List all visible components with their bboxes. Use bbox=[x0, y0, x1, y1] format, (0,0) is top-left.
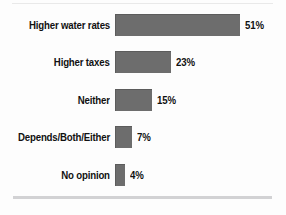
bar-value-label: 51% bbox=[245, 13, 264, 37]
bar-track: 51% bbox=[115, 13, 280, 37]
bar-category-label: Higher taxes bbox=[54, 50, 110, 74]
bar-fill bbox=[115, 164, 125, 186]
bar-category-label: Depends/Both/Either bbox=[18, 125, 110, 149]
bar-value-label: 7% bbox=[137, 125, 151, 149]
bar-value-label: 4% bbox=[130, 163, 144, 187]
bar-fill bbox=[115, 51, 171, 73]
bottom-divider-rule bbox=[13, 196, 272, 199]
bar-value-label: 23% bbox=[176, 50, 195, 74]
bar-category-label: Higher water rates bbox=[29, 13, 110, 37]
bar-fill bbox=[115, 126, 132, 148]
bar-row: Higher water rates 51% bbox=[0, 13, 286, 37]
bar-row: No opinion 4% bbox=[0, 163, 286, 187]
horizontal-bar-chart: Higher water rates 51% Higher taxes 23% … bbox=[0, 0, 286, 215]
bar-track: 4% bbox=[115, 163, 165, 187]
bar-fill bbox=[115, 89, 152, 111]
chart-plot-area: Higher water rates 51% Higher taxes 23% … bbox=[0, 0, 286, 196]
bar-category-label: Neither bbox=[78, 88, 110, 112]
bar-row: Neither 15% bbox=[0, 88, 286, 112]
bar-track: 7% bbox=[115, 125, 172, 149]
bar-category-label: No opinion bbox=[61, 163, 110, 187]
bar-track: 23% bbox=[115, 50, 211, 74]
bar-row: Depends/Both/Either 7% bbox=[0, 125, 286, 149]
bar-value-label: 15% bbox=[157, 88, 176, 112]
bar-row: Higher taxes 23% bbox=[0, 50, 286, 74]
bar-track: 15% bbox=[115, 88, 192, 112]
bar-fill bbox=[115, 14, 240, 36]
